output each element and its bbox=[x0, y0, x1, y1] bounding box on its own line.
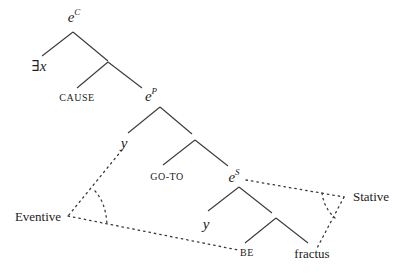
edge-eP-y bbox=[128, 107, 160, 133]
node-exists-x: ∃x bbox=[32, 59, 47, 74]
dotted-eS-stative bbox=[246, 180, 344, 197]
edge-node-fractus bbox=[276, 218, 308, 243]
node-eS: eS bbox=[228, 170, 239, 185]
dotted-eventive-be bbox=[68, 216, 238, 250]
dotted-y-eventive bbox=[68, 150, 122, 216]
tree-edges bbox=[0, 0, 400, 279]
stative-angle-arc bbox=[322, 193, 335, 218]
node-goto: GO-TO bbox=[150, 172, 183, 182]
node-eP: eP bbox=[145, 89, 157, 104]
edge-eS-y bbox=[208, 187, 239, 211]
node-y-upper: y bbox=[121, 136, 128, 151]
node-eC: eC bbox=[68, 10, 81, 25]
node-fractus: fractus bbox=[294, 247, 329, 260]
edge-node-cause bbox=[77, 62, 108, 88]
eventive-angle-arc bbox=[95, 191, 107, 225]
edge-node-eP bbox=[108, 62, 142, 88]
node-cause: CAUSE bbox=[59, 93, 94, 103]
edge-eC-exists bbox=[42, 32, 73, 56]
edge-node-be bbox=[245, 218, 276, 243]
annotation-stative: Stative bbox=[353, 190, 389, 203]
edge-eC-node bbox=[73, 32, 108, 61]
edge-eP-node bbox=[160, 107, 192, 134]
tree-diagram: eC ∃x CAUSE eP y GO-TO eS y BE fractus E… bbox=[0, 0, 400, 279]
node-be: BE bbox=[240, 248, 254, 258]
annotation-eventive: Eventive bbox=[15, 210, 61, 223]
dotted-stative-fractus bbox=[316, 197, 344, 250]
edge-eS-node bbox=[239, 187, 272, 213]
node-y-lower: y bbox=[203, 217, 210, 232]
edge-node-goto bbox=[163, 140, 195, 165]
edge-node-eS bbox=[195, 140, 228, 166]
